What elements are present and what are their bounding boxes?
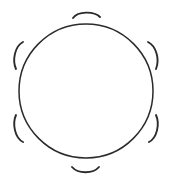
figure-canvas: Circle encircled by six outward-curving …: [0, 0, 171, 186]
circle-with-arcs-diagram: Circle encircled by six outward-curving …: [0, 0, 171, 186]
